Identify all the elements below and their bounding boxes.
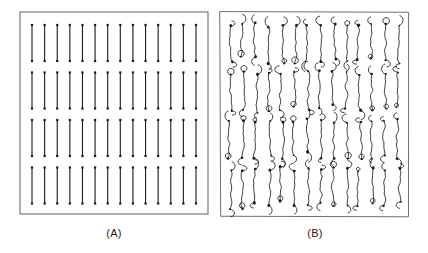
figure-root: (A) (B) xyxy=(0,0,428,253)
segment-endpoint-dot xyxy=(56,107,58,109)
stroke-endpoint-blob xyxy=(227,157,229,159)
stroke-endpoint-blob xyxy=(372,166,375,169)
stroke-endpoint-blob xyxy=(371,109,374,111)
segment-endpoint-dot xyxy=(182,60,184,62)
stroke-endpoint-blob xyxy=(231,60,233,63)
segment-endpoint-dot xyxy=(44,202,46,204)
stroke-endpoint-blob xyxy=(397,118,399,121)
segment-endpoint-dot xyxy=(107,107,109,109)
segment-endpoint-dot xyxy=(157,107,159,109)
stroke-endpoint-blob xyxy=(333,122,336,124)
segment-endpoint-dot xyxy=(132,107,134,109)
segment-endpoint-dot xyxy=(132,202,134,204)
stroke-endpoint-blob xyxy=(280,73,282,76)
stroke-endpoint-blob xyxy=(293,170,296,173)
segment-endpoint-dot xyxy=(182,107,184,109)
segment-endpoint-dot xyxy=(81,24,83,26)
stroke-endpoint-blob xyxy=(279,165,282,168)
panel-a-canvas xyxy=(18,10,210,216)
segment-endpoint-dot xyxy=(132,119,134,121)
segment-endpoint-dot xyxy=(94,202,96,204)
segment-endpoint-dot xyxy=(69,119,71,121)
segment-endpoint-dot xyxy=(132,166,134,168)
stroke-endpoint-blob xyxy=(344,107,346,109)
stroke-endpoint-blob xyxy=(333,167,335,169)
segment-endpoint-dot xyxy=(119,202,121,204)
stroke-endpoint-blob xyxy=(267,62,270,66)
stroke-endpoint-blob xyxy=(334,23,336,26)
segment-endpoint-dot xyxy=(157,71,159,73)
stroke-endpoint-blob xyxy=(241,169,243,172)
segment-endpoint-dot xyxy=(132,71,134,73)
stroke-endpoint-blob xyxy=(254,55,257,58)
segment-endpoint-dot xyxy=(119,119,121,121)
segment-endpoint-dot xyxy=(107,202,109,204)
stroke-endpoint-blob xyxy=(347,60,349,61)
segment-endpoint-dot xyxy=(69,107,71,109)
stroke-endpoint-blob xyxy=(318,69,321,72)
stroke-endpoint-blob xyxy=(293,154,295,155)
stroke-endpoint-blob xyxy=(279,109,281,111)
stroke-endpoint-blob xyxy=(385,73,387,75)
segment-endpoint-dot xyxy=(31,107,33,109)
segment-endpoint-dot xyxy=(81,60,83,62)
panel-b-frame xyxy=(220,12,409,217)
segment-endpoint-dot xyxy=(56,60,58,62)
stroke-endpoint-blob xyxy=(306,150,309,154)
panel-b xyxy=(216,8,412,220)
segment-endpoint-dot xyxy=(31,24,33,26)
stroke-endpoint-blob xyxy=(295,24,298,27)
stroke-endpoint-blob xyxy=(242,119,245,122)
segment-endpoint-dot xyxy=(56,166,58,168)
stroke-endpoint-blob xyxy=(252,157,255,160)
stroke-endpoint-blob xyxy=(333,157,336,160)
stroke-endpoint-blob xyxy=(281,24,284,27)
panel-b-canvas xyxy=(216,8,412,220)
stroke-endpoint-blob xyxy=(242,70,245,72)
segment-endpoint-dot xyxy=(69,24,71,26)
segment-endpoint-dot xyxy=(81,71,83,73)
segment-endpoint-dot xyxy=(69,202,71,204)
segment-endpoint-dot xyxy=(44,71,46,73)
stroke-endpoint-blob xyxy=(257,112,259,114)
stroke-endpoint-blob xyxy=(228,120,230,122)
stroke-endpoint-blob xyxy=(400,201,402,203)
segment-endpoint-dot xyxy=(31,60,33,62)
stroke-endpoint-blob xyxy=(346,122,348,124)
stroke-endpoint-blob xyxy=(293,71,295,73)
stroke-endpoint-blob xyxy=(241,208,244,211)
segment-endpoint-dot xyxy=(94,60,96,62)
panel-a-caption: (A) xyxy=(54,227,174,239)
stroke-endpoint-blob xyxy=(229,208,231,210)
segment-endpoint-dot xyxy=(170,24,172,26)
stroke-endpoint-blob xyxy=(229,24,232,27)
stroke-endpoint-blob xyxy=(318,107,320,110)
segment-endpoint-dot xyxy=(107,119,109,121)
segment-endpoint-dot xyxy=(170,155,172,157)
stroke-endpoint-blob xyxy=(230,169,232,171)
stroke-endpoint-blob xyxy=(357,24,360,28)
stroke-endpoint-blob xyxy=(308,167,310,170)
stroke-endpoint-blob xyxy=(384,59,386,61)
stroke-endpoint-blob xyxy=(385,108,387,109)
segment-endpoint-dot xyxy=(132,24,134,26)
stroke-endpoint-blob xyxy=(358,74,361,76)
segment-endpoint-dot xyxy=(170,60,172,62)
stroke-endpoint-blob xyxy=(360,121,363,123)
stroke-endpoint-blob xyxy=(371,158,373,160)
panel-a-frame xyxy=(20,12,208,214)
stroke-endpoint-blob xyxy=(268,169,271,172)
segment-endpoint-dot xyxy=(81,202,83,204)
stroke-endpoint-blob xyxy=(332,205,334,207)
stroke-endpoint-blob xyxy=(347,158,349,160)
segment-endpoint-dot xyxy=(119,166,121,168)
stroke-endpoint-blob xyxy=(294,63,296,64)
stroke-endpoint-blob xyxy=(370,57,372,60)
segment-endpoint-dot xyxy=(132,60,134,62)
stroke-endpoint-blob xyxy=(269,120,271,122)
segment-endpoint-dot xyxy=(56,202,58,204)
stroke-endpoint-blob xyxy=(283,62,285,64)
segment-endpoint-dot xyxy=(144,202,146,204)
segment-endpoint-dot xyxy=(94,107,96,109)
segment-endpoint-dot xyxy=(119,60,121,62)
